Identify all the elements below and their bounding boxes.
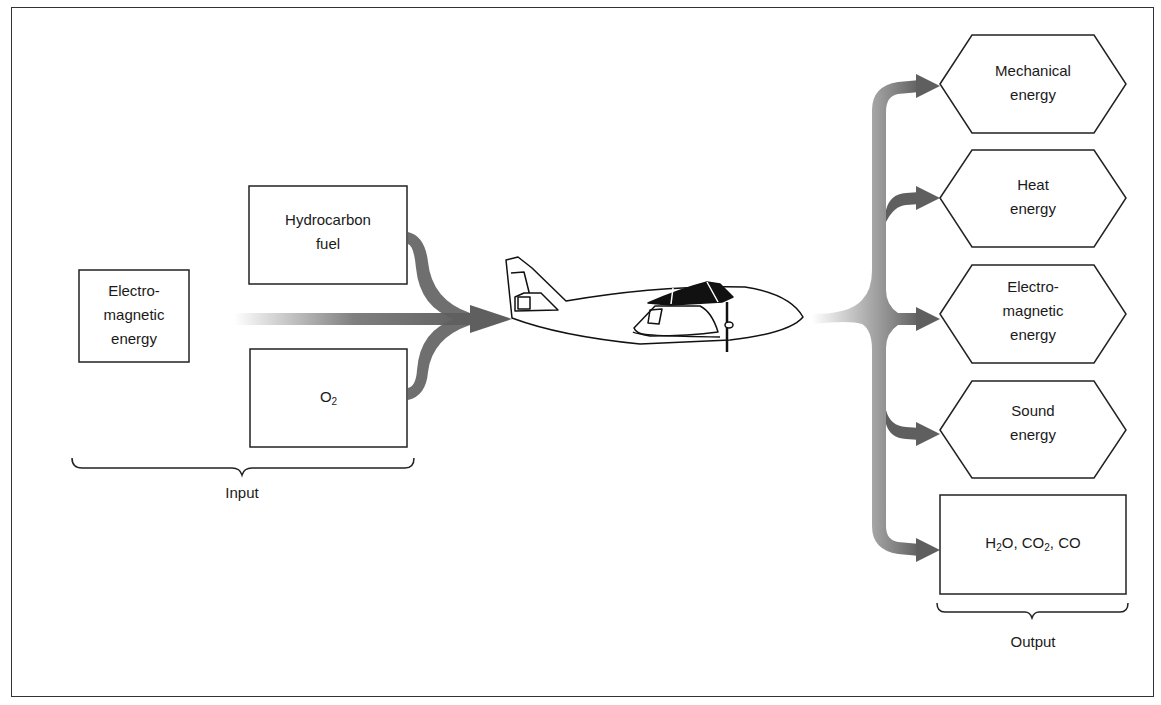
input-brace (72, 458, 414, 475)
byproducts-label: H2O, CO2, CO (940, 531, 1126, 560)
output-group-label: Output (983, 630, 1083, 654)
hydrocarbon-fuel-label: Hydrocarbon fuel (249, 208, 407, 256)
mechanical-energy-label: Mechanical energy (972, 59, 1094, 107)
input-arrows (234, 232, 512, 400)
heat-energy-label: Heat energy (972, 173, 1094, 221)
electromagnetic-input-label: Electro- magnetic energy (79, 279, 189, 351)
output-arrows (812, 74, 940, 562)
input-group-label: Input (192, 481, 292, 505)
electromagnetic-output-label: Electro- magnetic energy (972, 275, 1094, 347)
output-brace (937, 603, 1128, 618)
oxygen-label: O2 (250, 385, 407, 414)
airplane-icon (506, 257, 803, 352)
sound-energy-label: Sound energy (972, 399, 1094, 447)
